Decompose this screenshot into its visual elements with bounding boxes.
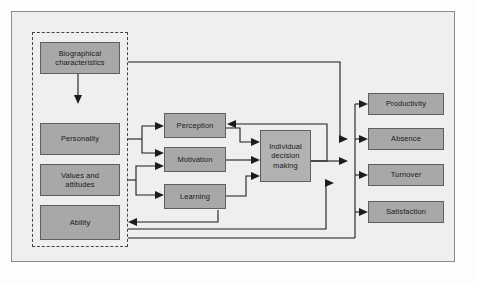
node-productivity[interactable]: Productivity (368, 93, 444, 115)
node-label: Motivation (177, 155, 212, 164)
diagram-canvas: Biographical characteristics Personality… (0, 0, 477, 283)
node-learning[interactable]: Learning (164, 184, 226, 209)
node-label: Individual decision making (269, 142, 302, 169)
node-label: Absence (391, 134, 421, 143)
node-turnover[interactable]: Turnover (368, 164, 444, 186)
node-label: Biographical characteristics (55, 49, 104, 67)
node-perception[interactable]: Perception (164, 113, 226, 138)
node-biographical-characteristics[interactable]: Biographical characteristics (40, 42, 120, 74)
node-values-and-attitudes[interactable]: Values and attitudes (40, 164, 120, 196)
node-satisfaction[interactable]: Satisfaction (368, 201, 444, 223)
node-label: Learning (180, 192, 210, 201)
node-label: Perception (177, 121, 214, 130)
node-label: Productivity (386, 99, 426, 108)
node-label: Turnover (391, 170, 422, 179)
node-ability[interactable]: Ability (40, 205, 120, 240)
node-personality[interactable]: Personality (40, 123, 120, 155)
node-label: Ability (70, 218, 91, 227)
node-motivation[interactable]: Motivation (164, 147, 226, 172)
node-label: Values and attitudes (61, 171, 99, 189)
node-label: Personality (61, 134, 99, 143)
node-individual-decision-making[interactable]: Individual decision making (260, 130, 311, 182)
node-label: Satisfaction (386, 207, 426, 216)
node-absence[interactable]: Absence (368, 128, 444, 150)
